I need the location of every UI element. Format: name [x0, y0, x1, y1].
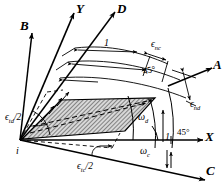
axis-label-A: A: [213, 58, 222, 71]
axis-label-B: B: [20, 19, 29, 32]
epsilon-divisor-td: /2: [14, 112, 21, 122]
omega-symbol-d: ω: [138, 111, 145, 122]
angle-label-45-lower: 45°: [177, 128, 190, 137]
axis-label-D: D: [117, 2, 126, 15]
axis-C-line: [20, 140, 205, 180]
dimension-label-unit-2: 1: [165, 132, 170, 142]
origin-label-i: i: [16, 146, 19, 156]
epsilon-sub-nd: nd: [194, 104, 201, 111]
angle-label-omega-c: ωc: [140, 146, 150, 159]
epsilon-divisor-tc: /2: [86, 161, 93, 171]
epsilon-sub-nc: nc: [155, 44, 161, 51]
axis-label-C: C: [206, 164, 215, 177]
strain-label-shear-d: ϵtd/2: [5, 113, 21, 124]
dimension-lines: [56, 47, 196, 106]
axis-label-X: X: [205, 130, 214, 143]
diagram-canvas: [0, 0, 223, 190]
strain-diagram: B Y D A X C i 1 1 ϵnc ϵnd ϵtd/2 ϵtc/2 ωd…: [0, 0, 223, 190]
axis-label-Y: Y: [76, 2, 84, 15]
strain-label-normal-c: ϵnc: [151, 40, 161, 51]
omega-symbol-c: ω: [140, 145, 147, 156]
omega-sub-d: d: [145, 117, 148, 124]
dimension-label-unit-1: 1: [104, 38, 109, 48]
strain-label-shear-c: ϵtc/2: [77, 162, 93, 173]
axis-lines: [20, 12, 212, 180]
angle-label-omega-d: ωd: [138, 112, 148, 125]
omega-sub-c: c: [147, 151, 150, 158]
strain-label-normal-d: ϵnd: [190, 100, 200, 111]
